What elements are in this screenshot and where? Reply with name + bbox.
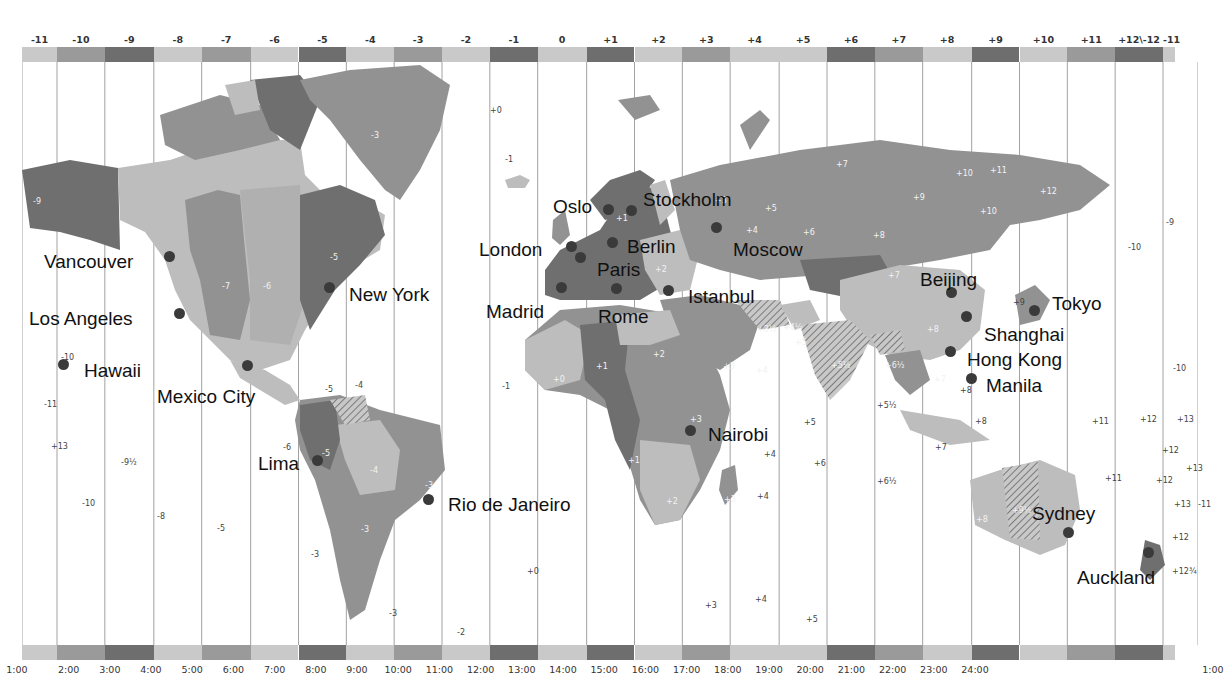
city-label: Istanbul [688, 287, 755, 306]
hour-label: 24:00 [958, 664, 992, 675]
city-marker-icon[interactable] [566, 241, 577, 252]
hour-label: 9:00 [340, 664, 374, 675]
hour-label: 23:00 [917, 664, 951, 675]
city-marker-icon[interactable] [1063, 527, 1074, 538]
city-marker-icon[interactable] [1029, 305, 1040, 316]
zone-offset-label: +3 [705, 601, 717, 610]
zone-offset-label: -10 [82, 499, 95, 508]
hour-label: 19:00 [752, 664, 786, 675]
band-segment [251, 645, 299, 660]
hour-label: 17:00 [670, 664, 704, 675]
band-segment [202, 47, 251, 62]
utc-offset-label: +7 [875, 34, 923, 45]
city-marker-icon[interactable] [711, 222, 722, 233]
city-marker-icon[interactable] [575, 252, 586, 263]
zone-offset-label: -3 [371, 131, 379, 140]
zone-offset-label: +9 [913, 193, 925, 202]
city-marker-icon[interactable] [663, 285, 674, 296]
zone-offset-label: +1 [596, 362, 608, 371]
hour-label: 11:00 [422, 664, 456, 675]
city-label: Vancouver [44, 252, 133, 271]
band-segment [587, 47, 635, 62]
city-marker-icon[interactable] [423, 494, 434, 505]
city-label: Los Angeles [29, 309, 133, 328]
band-segment [1115, 47, 1163, 62]
city-label: Mexico City [157, 387, 255, 406]
hour-label: 13:00 [505, 664, 539, 675]
utc-offset-label: +3 [682, 34, 730, 45]
zone-offset-label: +8 [960, 386, 972, 395]
utc-offset-label: +9 [972, 34, 1020, 45]
city-marker-icon[interactable] [611, 283, 622, 294]
band-segment [587, 645, 635, 660]
zone-offset-label: +3 [723, 362, 735, 371]
band-segment [394, 645, 442, 660]
band-segment [442, 47, 490, 62]
city-marker-icon[interactable] [174, 308, 185, 319]
city-label: Shanghai [984, 325, 1064, 344]
zone-offset-label: +6 [814, 459, 826, 468]
zone-offset-label: -10 [1128, 243, 1141, 252]
city-marker-icon[interactable] [603, 204, 614, 215]
band-segment [1067, 645, 1115, 660]
band-segment [57, 47, 105, 62]
city-marker-icon[interactable] [626, 205, 637, 216]
city-marker-icon[interactable] [607, 237, 618, 248]
zone-offset-label: +9 [1013, 298, 1025, 307]
hour-label: 14:00 [546, 664, 580, 675]
city-marker-icon[interactable] [324, 282, 335, 293]
zone-offset-label: +12¾ [1172, 567, 1197, 576]
zone-offset-label: +3½ [757, 325, 777, 334]
band-segment [779, 645, 827, 660]
city-marker-icon[interactable] [556, 282, 567, 293]
zone-offset-label: -3 [311, 550, 319, 559]
band-segment [299, 645, 347, 660]
utc-offset-label: +10 [1020, 34, 1068, 45]
city-label: Beijing [920, 270, 977, 289]
zone-offset-label: -4 [370, 466, 378, 475]
city-marker-icon[interactable] [242, 360, 253, 371]
band-segment [972, 645, 1020, 660]
city-marker-icon[interactable] [164, 251, 175, 262]
zone-offset-label: +10 [980, 207, 997, 216]
zone-offset-label: +9½ [1012, 506, 1032, 515]
utc-offset-label: -7 [202, 34, 251, 45]
hour-label: 22:00 [876, 664, 910, 675]
city-marker-icon[interactable] [945, 346, 956, 357]
utc-offset-label: -1 [490, 34, 538, 45]
band-segment [682, 645, 730, 660]
hour-label: 2:00 [52, 664, 86, 675]
hour-label: 5:00 [175, 664, 209, 675]
zone-offset-label: +4½ [783, 323, 803, 332]
utc-offset-label: -9 [105, 34, 154, 45]
band-segment [875, 645, 923, 660]
city-marker-icon[interactable] [312, 455, 323, 466]
city-marker-icon[interactable] [961, 311, 972, 322]
city-marker-icon[interactable] [58, 359, 69, 370]
city-marker-icon[interactable] [685, 425, 696, 436]
zone-offset-label: +6½ [877, 477, 897, 486]
band-segment [682, 47, 730, 62]
band-segment [490, 645, 538, 660]
band-segment [779, 47, 827, 62]
band-segment [730, 645, 779, 660]
band-segment [105, 47, 154, 62]
hour-label: 20:00 [793, 664, 827, 675]
zone-offset-label: +6½ [885, 361, 905, 370]
band-segment [875, 47, 923, 62]
utc-offset-label: +5 [779, 34, 827, 45]
zone-offset-label: +5 [795, 338, 807, 347]
zone-offset-label: +8 [873, 231, 885, 240]
utc-offset-label: -11 [1163, 34, 1175, 45]
band-segment [1067, 47, 1115, 62]
zone-offset-label: +11 [990, 166, 1007, 175]
city-marker-icon[interactable] [966, 373, 977, 384]
hour-label: 4:00 [134, 664, 168, 675]
band-segment [105, 645, 154, 660]
zone-offset-label: +4 [746, 226, 758, 235]
hour-label: 15:00 [587, 664, 621, 675]
city-marker-icon[interactable] [1143, 547, 1154, 558]
band-segment [299, 47, 347, 62]
zone-offset-label: +12 [1162, 446, 1179, 455]
city-label: Auckland [1077, 568, 1155, 587]
